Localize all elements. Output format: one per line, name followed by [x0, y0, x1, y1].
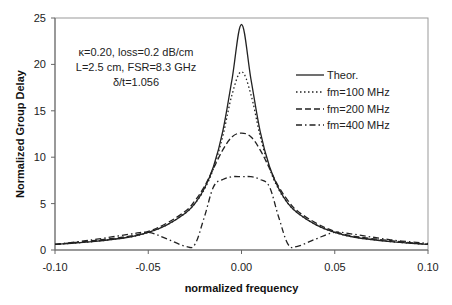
legend-label-fm100: fm=100 MHz [327, 86, 390, 98]
y-axis [51, 18, 55, 250]
y-tick-20: 20 [34, 58, 46, 70]
x-tick-000: 0.00 [231, 261, 252, 273]
x-tick-labels: -0.10 -0.05 0.00 0.05 0.10 [42, 261, 438, 273]
parameter-annotation: κ=0.20, loss=0.2 dB/cm L=2.5 cm, FSR=8.3… [76, 46, 196, 88]
y-tick-labels: 0 5 10 15 20 25 [34, 12, 46, 256]
legend-label-fm400: fm=400 MHz [327, 119, 390, 131]
y-tick-10: 10 [34, 151, 46, 163]
legend: Theor. fm=100 MHz fm=200 MHz fm=400 MHz [296, 69, 390, 131]
x-tick-neg005: -0.05 [135, 261, 160, 273]
y-axis-title: Normalized Group Delay [14, 69, 26, 198]
x-axis-title: normalized frequency [185, 282, 300, 294]
annotation-line-2: L=2.5 cm, FSR=8.3 GHz [76, 61, 196, 73]
annotation-line-3: δ/t=1.056 [113, 76, 159, 88]
annotation-line-1: κ=0.20, loss=0.2 dB/cm [79, 46, 194, 58]
y-tick-5: 5 [40, 198, 46, 210]
y-tick-15: 15 [34, 105, 46, 117]
y-tick-0: 0 [40, 244, 46, 256]
x-tick-neg010: -0.10 [42, 261, 67, 273]
x-tick-010: 0.10 [417, 261, 438, 273]
x-axis [55, 250, 428, 254]
y-tick-25: 25 [34, 12, 46, 24]
x-tick-005: 0.05 [324, 261, 345, 273]
group-delay-chart: 0 5 10 15 20 25 -0.10 -0.05 0.00 0.05 0.… [0, 0, 452, 305]
legend-label-theor: Theor. [327, 69, 358, 81]
series-fm-200-mhz [55, 133, 428, 244]
legend-label-fm200: fm=200 MHz [327, 103, 390, 115]
series-fm-400-mhz [55, 176, 428, 247]
